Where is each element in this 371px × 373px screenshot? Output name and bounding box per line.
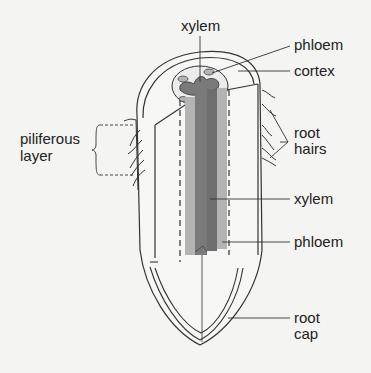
label-xylem-top: xylem — [181, 18, 220, 33]
label-cortex: cortex — [294, 63, 335, 78]
label-xylem-side: xylem — [294, 191, 333, 206]
label-root-cap-2: cap — [294, 326, 318, 341]
label-layer: layer — [20, 148, 53, 163]
label-phloem-side: phloem — [294, 234, 343, 249]
label-root-cap-1: root — [294, 310, 320, 325]
label-root-hairs-2: hairs — [294, 141, 327, 156]
label-phloem-top: phloem — [294, 37, 343, 52]
root-tip-diagram: xylem phloem cortex piliferous layer roo… — [0, 0, 371, 373]
label-root-hairs-1: root — [294, 125, 320, 140]
label-piliferous: piliferous — [20, 131, 80, 146]
vascular-strands — [180, 88, 229, 262]
